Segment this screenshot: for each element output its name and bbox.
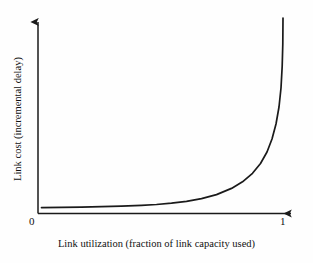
link-cost-curve (42, 18, 284, 208)
chart-plot-area (0, 0, 313, 263)
chart-figure: 0 1 Link utilization (fraction of link c… (0, 0, 313, 263)
x-axis-tick-label-1: 1 (280, 216, 286, 227)
x-axis-title: Link utilization (fraction of link capac… (0, 238, 313, 249)
x-axis-tick-label-0: 0 (29, 216, 35, 227)
y-axis-title: Link cost (incremental delay) (11, 39, 25, 199)
y-axis-title-container: Link cost (incremental delay) (11, 39, 25, 199)
